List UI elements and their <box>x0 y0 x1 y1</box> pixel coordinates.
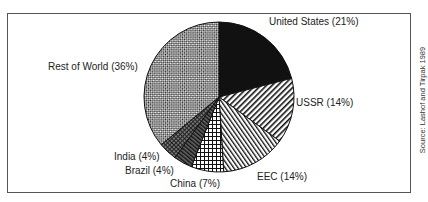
label-united-states: United States (21%) <box>269 16 359 27</box>
source-credit: Source: Lashof and Tirpak 1989 <box>418 47 427 153</box>
pie-chart <box>0 0 428 202</box>
label-ussr: USSR (14%) <box>296 97 353 108</box>
label-india: India (4%) <box>114 151 160 162</box>
label-china: China (7%) <box>170 178 220 189</box>
label-rest-of-world: Rest of World (36%) <box>48 61 138 72</box>
label-eec: EEC (14%) <box>257 171 307 182</box>
label-brazil: Brazil (4%) <box>125 165 174 176</box>
